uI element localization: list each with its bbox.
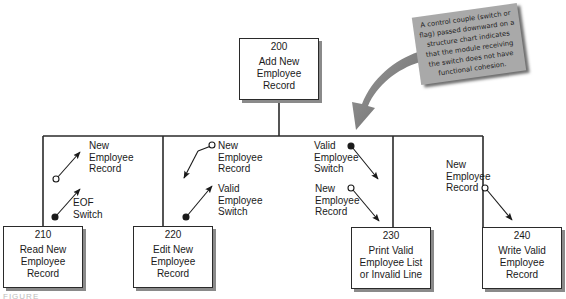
couple-label-210-eof: EOF Switch: [73, 197, 102, 220]
module-number: 200: [240, 41, 318, 53]
module-number: 230: [352, 230, 430, 242]
couple-210-record: [53, 152, 80, 182]
couple-label-220-record: New Employee Record: [218, 140, 262, 175]
module-name: Edit New Employee Record: [134, 244, 212, 280]
module-number: 220: [134, 229, 212, 241]
couple-label-210-record: New Employee Record: [89, 140, 133, 175]
couple-220-record: [184, 142, 215, 178]
couple-220-switch: [183, 186, 212, 220]
module-210: 210 Read New Employee Record: [3, 226, 83, 288]
pointer-arrow: [352, 52, 420, 130]
couple-label-220-switch: Valid Employee Switch: [218, 183, 262, 218]
couple-label-230-record: New Employee Record: [315, 183, 359, 218]
module-name: Write Valid Employee Record: [483, 245, 561, 281]
module-220: 220 Edit New Employee Record: [133, 226, 213, 288]
module-230: 230 Print Valid Employee List or Invalid…: [351, 227, 431, 289]
module-name: Read New Employee Record: [4, 244, 82, 280]
module-200: 200 Add New Employee Record: [239, 38, 319, 100]
couple-label-230-switch: Valid Employee Switch: [314, 140, 358, 175]
module-240: 240 Write Valid Employee Record: [482, 227, 562, 289]
module-number: 240: [483, 230, 561, 242]
module-name: Print Valid Employee List or Invalid Lin…: [352, 245, 430, 281]
couple-label-240-record: New Employee Record: [446, 159, 490, 194]
module-name: Add New Employee Record: [240, 56, 318, 92]
module-number: 210: [4, 229, 82, 241]
figure-caption: FIGURE: [3, 292, 39, 299]
